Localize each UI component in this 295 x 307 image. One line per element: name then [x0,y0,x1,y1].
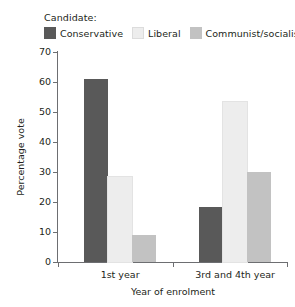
y-axis-tick-label: 20 [39,197,51,207]
y-axis-tick-label: 10 [39,227,51,237]
legend-entries: Conservative Liberal Communist/socialist [44,27,292,39]
legend-entry-liberal: Liberal [132,27,181,39]
legend-swatch-icon [132,27,144,39]
legend-label: Communist/socialist [206,28,295,39]
y-axis-tick [53,112,58,113]
legend-label: Conservative [60,28,123,39]
bar [132,235,156,262]
x-axis-group-label: 3rd and 4th year [195,269,275,280]
x-axis-tick [287,262,288,267]
y-axis-tick [53,52,58,53]
x-axis-title: Year of enrolment [58,286,288,297]
bar [108,177,132,263]
legend-swatch-icon [44,27,56,39]
chart-legend: Candidate: Conservative Liberal Communis… [44,12,292,39]
y-axis-tick-label: 30 [39,167,51,177]
bar [247,172,271,262]
bar [223,102,247,263]
y-axis-tick-label: 50 [39,107,51,117]
x-axis-tick [173,262,174,267]
y-axis-tick [53,232,58,233]
bar-chart: Candidate: Conservative Liberal Communis… [0,0,295,307]
legend-title: Candidate: [44,12,292,24]
legend-swatch-icon [190,27,202,39]
legend-entry-conservative: Conservative [44,27,123,39]
y-axis-tick-label: 40 [39,137,51,147]
y-axis-title: Percentage vote [14,52,28,262]
plot-area: 010203040506070 1st year3rd and 4th year [58,52,288,262]
y-axis-tick [53,202,58,203]
bar [84,79,108,262]
legend-entry-communist-socialist: Communist/socialist [190,27,295,39]
legend-label: Liberal [148,28,181,39]
y-axis-tick-label: 70 [39,47,51,57]
x-axis-tick [58,262,59,267]
y-axis-tick [53,82,58,83]
y-axis-tick [53,172,58,173]
y-axis-tick-label: 60 [39,77,51,87]
x-axis-group-label: 1st year [101,269,140,280]
bar [199,207,223,263]
y-axis-tick [53,142,58,143]
y-axis-tick-label: 0 [45,257,51,267]
